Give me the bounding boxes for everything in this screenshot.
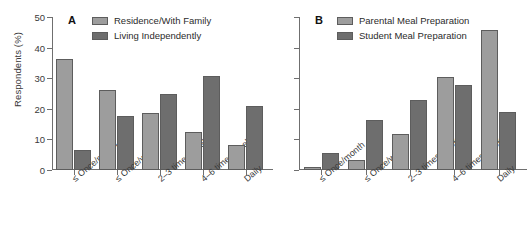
- bar: [481, 30, 498, 170]
- y-axis-tick: [294, 170, 299, 171]
- bar: [437, 77, 454, 170]
- bar-group: [343, 17, 387, 170]
- bar: [185, 132, 202, 170]
- y-axis-tick-label: 10: [34, 134, 45, 145]
- bar: [392, 134, 409, 170]
- bar: [203, 76, 220, 170]
- bar-group: [95, 17, 138, 170]
- y-axis-tick-label: 0: [40, 165, 45, 176]
- bar-group: [181, 17, 224, 170]
- panel-a: A Residence/With Family Living Independe…: [30, 0, 275, 238]
- bar: [142, 113, 159, 170]
- y-axis-tick: [47, 170, 52, 171]
- bar-group: [299, 17, 343, 170]
- y-axis-tick-label: 30: [34, 73, 45, 84]
- bar: [348, 160, 365, 170]
- y-axis-tick-label: 40: [34, 42, 45, 53]
- y-axis-label: Respondents (%): [12, 15, 23, 125]
- bar-group: [224, 17, 267, 170]
- y-axis-tick-label: 20: [34, 103, 45, 114]
- bar-group: [138, 17, 181, 170]
- bar: [499, 112, 516, 170]
- panel-a-plot-area: 01020304050≤ Once/month≤ Once/week2–3 ti…: [52, 17, 267, 170]
- bar: [246, 106, 263, 170]
- bar-group: [432, 17, 476, 170]
- panel-b: B Parental Meal Preparation Student Meal…: [285, 0, 530, 238]
- bar-group: [477, 17, 521, 170]
- bar-group: [52, 17, 95, 170]
- bar: [99, 90, 116, 170]
- bar-group: [388, 17, 432, 170]
- y-axis-tick-label: 50: [34, 12, 45, 23]
- grouped-bar-chart-figure: Respondents (%) A Residence/With Family …: [0, 0, 530, 238]
- bar: [228, 145, 245, 170]
- bar: [455, 85, 472, 170]
- panel-b-plot-area: ≤ Once/month≤ Once/week2–3 times/week4–6…: [299, 17, 521, 170]
- bar: [56, 59, 73, 170]
- bar: [160, 94, 177, 171]
- bar: [304, 167, 321, 170]
